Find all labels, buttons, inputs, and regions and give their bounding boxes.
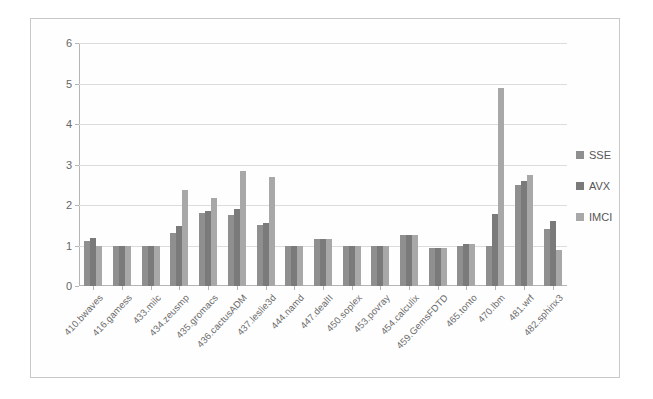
legend-item-sse[interactable]: SSE [576,149,636,161]
plot-area: 0123456 [79,43,567,286]
bar-group [165,43,194,286]
bar-imci[interactable] [211,198,217,286]
bar-group [366,43,395,286]
x-axis-label: 459.GemsFDTD [394,292,450,351]
y-tick-label: 6 [66,37,72,49]
legend-item-imci[interactable]: IMCI [576,211,636,223]
bar-imci[interactable] [326,239,332,286]
bar-imci[interactable] [96,246,102,287]
bar-group [337,43,366,286]
bar-group [194,43,223,286]
bar-imci[interactable] [182,190,188,286]
legend-label: IMCI [589,211,612,223]
bar-imci[interactable] [556,250,562,286]
bar-group [280,43,309,286]
bar-imci[interactable] [383,246,389,287]
bar-group [223,43,252,286]
bar-group [538,43,567,286]
bar-imci[interactable] [498,88,504,286]
chart-frame: 0123456 410.bwaves416.gamess433.milc434.… [30,18,620,378]
bar-group [481,43,510,286]
bar-imci[interactable] [412,235,418,286]
bar-imci[interactable] [469,244,475,286]
bar-imci[interactable] [355,246,361,287]
legend-label: SSE [589,149,611,161]
bar-imci[interactable] [154,246,160,287]
bar-group [423,43,452,286]
legend-item-avx[interactable]: AVX [576,180,636,192]
x-axis-label: 470.lbm [476,292,508,325]
y-tick-label: 5 [66,78,72,90]
bar-series-container [79,43,567,286]
bar-imci[interactable] [527,175,533,286]
bar-group [510,43,539,286]
y-tick-label: 4 [66,118,72,130]
bar-imci[interactable] [269,177,275,286]
bar-imci[interactable] [441,248,447,286]
bar-group [136,43,165,286]
bar-imci[interactable] [297,246,303,287]
y-tick-label: 2 [66,199,72,211]
legend-swatch-avx [576,182,584,190]
y-tick-label: 0 [66,280,72,292]
bar-group [452,43,481,286]
y-tick-label: 1 [66,240,72,252]
legend-label: AVX [589,180,610,192]
legend-swatch-imci [576,213,584,221]
bar-group [251,43,280,286]
chart-legend: SSEAVXIMCI [576,149,636,242]
bar-group [309,43,338,286]
x-axis-category-labels: 410.bwaves416.gamess433.milc434.zeusmp43… [79,286,567,378]
y-tick-label: 3 [66,159,72,171]
bar-group [395,43,424,286]
bar-imci[interactable] [125,246,131,287]
bar-group [79,43,108,286]
legend-swatch-sse [576,151,584,159]
bar-group [108,43,137,286]
bar-imci[interactable] [240,171,246,286]
